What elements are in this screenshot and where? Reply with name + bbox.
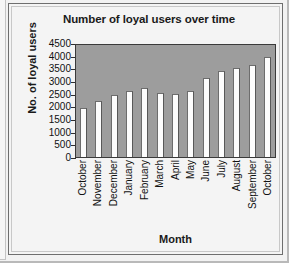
bar-slot: [183, 45, 198, 157]
x-tick-label: October: [78, 160, 88, 196]
y-tick-label: 3500: [35, 64, 71, 74]
figure-left-edge-strip: [0, 0, 6, 260]
y-tick-label: 0: [35, 153, 71, 163]
bar-slot: [168, 45, 183, 157]
x-tick-slot: February: [137, 160, 152, 226]
bar[interactable]: [141, 88, 148, 157]
x-tick-slot: October: [75, 160, 90, 226]
bar-slot: [229, 45, 244, 157]
bar[interactable]: [249, 65, 256, 157]
x-tick-slot: June: [199, 160, 214, 226]
y-tick-label: 1500: [35, 115, 71, 125]
y-tick-label: 1000: [35, 128, 71, 138]
plot-area: [75, 44, 276, 158]
x-tick-slot: November: [90, 160, 105, 226]
figure-inner-border: Number of loyal users over time No. of l…: [8, 3, 283, 255]
bar[interactable]: [80, 108, 87, 157]
bar[interactable]: [172, 94, 179, 157]
y-tick-label: 2500: [35, 90, 71, 100]
x-tick-label: January: [124, 160, 134, 196]
figure-frame: Number of loyal users over time No. of l…: [0, 0, 289, 263]
y-axis-tick-labels: 450040003500300025002000150010005000: [35, 38, 71, 164]
bar-slot: [260, 45, 275, 157]
bar[interactable]: [264, 57, 271, 157]
bar-slot: [244, 45, 259, 157]
x-tick-slot: January: [121, 160, 136, 226]
x-tick-slot: May: [183, 160, 198, 226]
y-tick-mark: [71, 158, 76, 159]
chart-title: Number of loyal users over time: [23, 13, 275, 25]
x-tick-slot: August: [230, 160, 245, 226]
x-tick-label: July: [217, 160, 227, 178]
bar-slot: [137, 45, 152, 157]
x-tick-slot: September: [245, 160, 260, 226]
x-tick-slot: March: [152, 160, 167, 226]
bar-slot: [214, 45, 229, 157]
bar-series: [76, 45, 275, 157]
y-tick-label: 500: [35, 140, 71, 150]
x-tick-label: September: [248, 160, 258, 209]
x-tick-label: October: [263, 160, 273, 196]
y-tick-label: 4500: [35, 39, 71, 49]
bar[interactable]: [126, 91, 133, 157]
bar-slot: [76, 45, 91, 157]
bar[interactable]: [111, 95, 118, 157]
bar-slot: [153, 45, 168, 157]
bar[interactable]: [218, 71, 225, 157]
bar[interactable]: [203, 78, 210, 157]
x-tick-slot: December: [106, 160, 121, 226]
x-tick-slot: April: [168, 160, 183, 226]
x-tick-label: June: [201, 160, 211, 182]
y-tick-label: 4000: [35, 52, 71, 62]
x-axis-tick-labels: OctoberNovemberDecemberJanuaryFebruaryMa…: [75, 160, 276, 226]
x-tick-label: May: [186, 160, 196, 179]
x-tick-label: February: [140, 160, 150, 200]
bar-slot: [107, 45, 122, 157]
x-tick-label: November: [93, 160, 103, 206]
bar[interactable]: [157, 93, 164, 157]
x-tick-label: August: [232, 160, 242, 191]
bar[interactable]: [233, 68, 240, 157]
x-axis-title: Month: [75, 233, 276, 245]
bar[interactable]: [187, 91, 194, 157]
x-tick-slot: July: [214, 160, 229, 226]
x-tick-label: March: [155, 160, 165, 188]
x-tick-label: December: [109, 160, 119, 206]
bar-slot: [91, 45, 106, 157]
x-tick-label: April: [171, 160, 181, 180]
y-tick-label: 2000: [35, 102, 71, 112]
y-tick-label: 3000: [35, 77, 71, 87]
bar-slot: [199, 45, 214, 157]
bar[interactable]: [95, 101, 102, 157]
x-tick-slot: October: [261, 160, 276, 226]
bar-slot: [122, 45, 137, 157]
